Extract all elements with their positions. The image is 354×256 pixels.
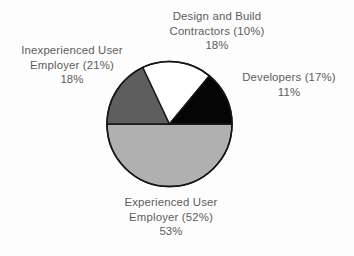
pie-label-line: Employer (52%): [98, 210, 244, 225]
pie-slice-experienced-user-employer[interactable]: [107, 124, 232, 187]
pie-label-developers: Developers (17%) 11%: [226, 70, 352, 99]
pie-label-line: Inexperienced User: [4, 43, 140, 58]
pie-label-line: Developers (17%): [226, 70, 352, 85]
pie-label-value: 18%: [4, 72, 140, 87]
pie-label-value: 53%: [98, 224, 244, 239]
pie-label-line: Design and Build: [150, 9, 284, 24]
pie-label-design-and-build-contractors: Design and Build Contractors (10%) 18%: [150, 9, 284, 53]
pie-label-experienced-user-employer: Experienced User Employer (52%) 53%: [98, 195, 244, 239]
pie-label-value: 18%: [150, 38, 284, 53]
pie-label-line: Experienced User: [98, 195, 244, 210]
pie-label-inexperienced-user-employer: Inexperienced User Employer (21%) 18%: [4, 43, 140, 87]
pie-label-line: Employer (21%): [4, 58, 140, 73]
pie-label-line: Contractors (10%): [150, 24, 284, 39]
pie-chart-figure: Design and Build Contractors (10%) 18% I…: [0, 0, 354, 256]
pie-label-value: 11%: [226, 85, 352, 100]
